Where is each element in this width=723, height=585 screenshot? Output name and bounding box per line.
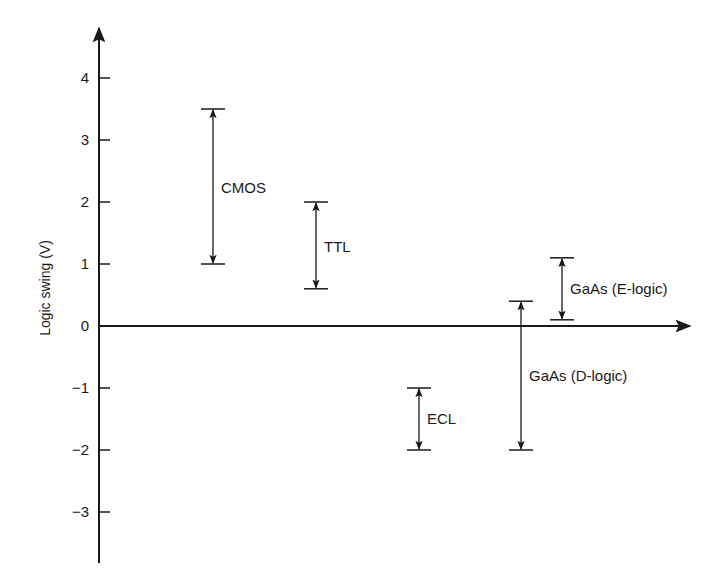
range-label: GaAs (E-logic) [570, 280, 668, 297]
range-label: ECL [427, 410, 456, 427]
range-label: TTL [324, 238, 351, 255]
y-tick-label: 3 [81, 131, 89, 148]
range-ttl: TTL [304, 202, 351, 289]
range-ecl: ECL [407, 388, 456, 450]
y-axis: 43210−1−2−3 Logic swing (V) [37, 28, 110, 563]
y-axis-label: Logic swing (V) [37, 240, 53, 336]
y-tick-label: 2 [81, 193, 89, 210]
y-tick-label: −2 [72, 441, 89, 458]
range-label: GaAs (D-logic) [529, 367, 627, 384]
range-label: CMOS [221, 179, 266, 196]
y-ticks: 43210−1−2−3 [72, 69, 110, 520]
range-gaas-e-logic: GaAs (E-logic) [550, 258, 668, 320]
y-tick-label: −1 [72, 379, 89, 396]
range-cmos: CMOS [201, 109, 266, 264]
series-ranges: CMOSTTLECLGaAs (D-logic)GaAs (E-logic) [201, 109, 668, 450]
y-tick-label: −3 [72, 503, 89, 520]
y-tick-label: 0 [81, 317, 89, 334]
y-tick-label: 1 [81, 255, 89, 272]
logic-swing-chart: 43210−1−2−3 Logic swing (V) CMOSTTLECLGa… [0, 0, 723, 585]
range-gaas-d-logic: GaAs (D-logic) [509, 301, 627, 450]
y-tick-label: 4 [81, 69, 89, 86]
